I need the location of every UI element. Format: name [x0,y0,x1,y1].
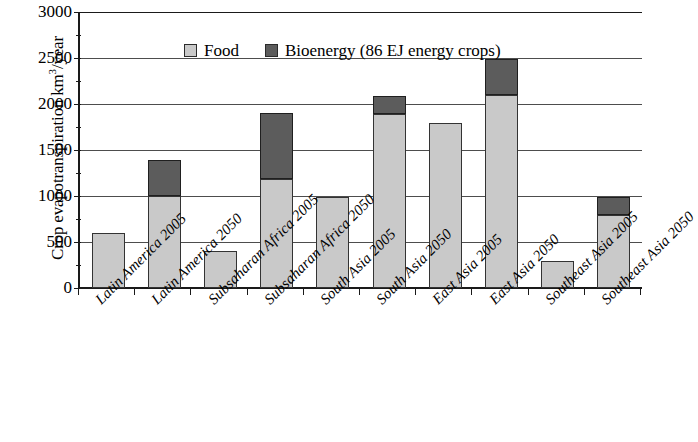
y-tick-label-3000: 3000 [28,3,72,20]
y-tick-label-0: 0 [28,279,72,296]
bar-group [92,12,125,288]
x-axis-tick-labels: Latin America 2005Latin America 2050Subs… [0,296,645,442]
x-tick-mark [471,288,472,295]
x-tick-mark [415,288,416,295]
y-tick-label-2000: 2000 [28,95,72,112]
y-tick-label-2500: 2500 [28,49,72,66]
legend-swatch-bioenergy-icon [265,44,278,57]
x-tick-mark [359,288,360,295]
y-tick-label-500: 500 [28,233,72,250]
legend: Food Bioenergy (86 EJ energy crops) [184,38,501,62]
bar-segment-bioenergy [260,113,293,179]
bar-segment-bioenergy [485,59,518,95]
legend-label-food: Food [204,42,239,59]
x-tick-mark [134,288,135,295]
x-tick-mark [640,288,641,295]
bar-segment-food [429,123,462,288]
x-tick-mark [584,288,585,295]
x-tick-mark [78,288,79,295]
x-tick-mark [303,288,304,295]
legend-entry-food: Food [184,42,239,59]
x-tick-mark [190,288,191,295]
x-tick-mark [247,288,248,295]
legend-label-bioenergy: Bioenergy (86 EJ energy crops) [285,42,501,59]
bar-segment-bioenergy [373,96,406,114]
x-tick-mark [528,288,529,295]
bar-segment-bioenergy [148,160,181,196]
y-tick-label-1500: 1500 [28,141,72,158]
legend-entry-bioenergy: Bioenergy (86 EJ energy crops) [265,42,501,59]
y-tick-label-1000: 1000 [28,187,72,204]
legend-swatch-food-icon [184,44,197,57]
